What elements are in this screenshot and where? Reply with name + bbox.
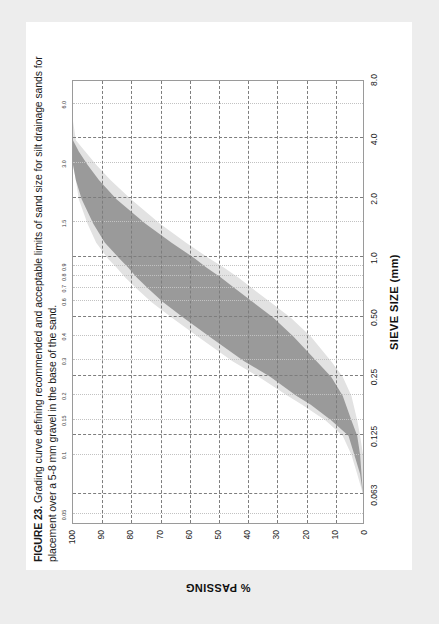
- minor-gridline: [73, 265, 363, 266]
- y-tick-label: 60: [184, 530, 194, 554]
- y-gridline: [277, 81, 278, 523]
- y-tick-label: 40: [242, 530, 252, 554]
- x-minor-tick-label: 3.0: [61, 160, 67, 168]
- x-minor-tick-label: 0.05: [61, 510, 67, 521]
- x-tick-label: 8.0: [369, 74, 379, 86]
- x-gridline: [73, 375, 363, 376]
- figure-page: FIGURE 23. Grading curve defining recomm…: [26, 22, 412, 570]
- x-gridline: [73, 197, 363, 198]
- x-minor-tick-label: 0.3: [61, 358, 67, 366]
- x-tick-label: 1.0: [369, 252, 379, 264]
- x-minor-tick-label: 0.2: [61, 392, 67, 400]
- y-tick-label: 10: [330, 530, 340, 554]
- minor-gridline: [73, 335, 363, 336]
- y-axis-title: % PASSING: [185, 582, 250, 594]
- y-gridline: [336, 81, 337, 523]
- x-gridline: [73, 434, 363, 435]
- minor-gridline: [73, 222, 363, 223]
- x-gridline: [73, 493, 363, 494]
- x-gridline: [73, 256, 363, 257]
- rotated-figure: FIGURE 23. Grading curve defining recomm…: [26, 22, 412, 570]
- minor-gridline: [73, 275, 363, 276]
- x-minor-tick-label: 1.5: [61, 220, 67, 228]
- y-tick-label: 0: [359, 530, 369, 554]
- figure-number: FIGURE 23.: [32, 506, 44, 562]
- x-tick-label: 4.0: [369, 133, 379, 145]
- x-tick-label: 0.25: [369, 369, 379, 386]
- y-tick-label: 30: [271, 530, 281, 554]
- x-minor-tick-label: 0.7: [61, 285, 67, 293]
- y-gridline: [248, 81, 249, 523]
- y-gridline: [190, 81, 191, 523]
- minor-gridline: [73, 454, 363, 455]
- x-minor-tick-label: 0.15: [61, 416, 67, 427]
- x-tick-label: 2.0: [369, 193, 379, 205]
- figure-caption: FIGURE 23. Grading curve defining recomm…: [32, 32, 59, 562]
- minor-gridline: [73, 394, 363, 395]
- y-gridline: [219, 81, 220, 523]
- x-minor-tick-label: 0.6: [61, 298, 67, 306]
- x-gridline: [73, 316, 363, 317]
- x-tick-label: 0.063: [369, 485, 379, 506]
- x-tick-label: 0.50: [369, 309, 379, 326]
- y-tick-label: 70: [155, 530, 165, 554]
- x-minor-tick-label: 0.4: [61, 333, 67, 341]
- y-gridline: [307, 81, 308, 523]
- y-tick-label: 90: [96, 530, 106, 554]
- y-gridline: [102, 81, 103, 523]
- caption-text: Grading curve defining recommended and a…: [32, 56, 58, 562]
- minor-gridline: [73, 419, 363, 420]
- x-tick-label: 0.125: [369, 426, 379, 447]
- x-gridline: [73, 137, 363, 138]
- minor-gridline: [73, 513, 363, 514]
- minor-gridline: [73, 103, 363, 104]
- x-minor-tick-label: 6.0: [61, 101, 67, 109]
- y-gridline: [161, 81, 162, 523]
- x-minor-tick-label: 0.8: [61, 274, 67, 282]
- x-axis-title: SIEVE SIZE (mm): [388, 80, 400, 524]
- y-tick-label: 80: [125, 530, 135, 554]
- chart-plot-area: 0.050.10.150.20.30.40.60.70.80.91.53.06.…: [72, 80, 364, 524]
- y-tick-label: 100: [67, 530, 77, 554]
- minor-gridline: [73, 300, 363, 301]
- y-tick-label: 20: [301, 530, 311, 554]
- minor-gridline: [73, 359, 363, 360]
- chart-frame: [72, 80, 364, 524]
- y-tick-label: 50: [213, 530, 223, 554]
- grading-band-group: [73, 81, 363, 523]
- y-gridline: [131, 81, 132, 523]
- x-minor-tick-label: 0.9: [61, 263, 67, 271]
- x-minor-tick-label: 0.1: [61, 452, 67, 460]
- minor-gridline: [73, 287, 363, 288]
- minor-gridline: [73, 162, 363, 163]
